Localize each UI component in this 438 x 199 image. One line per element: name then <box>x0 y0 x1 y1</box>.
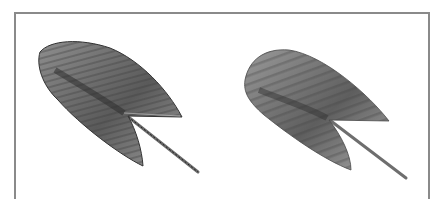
left-leaf-panel <box>0 0 219 199</box>
right-leaf-panel <box>219 0 438 199</box>
left-leaf-image <box>0 0 219 199</box>
right-leaf-image <box>219 0 438 199</box>
